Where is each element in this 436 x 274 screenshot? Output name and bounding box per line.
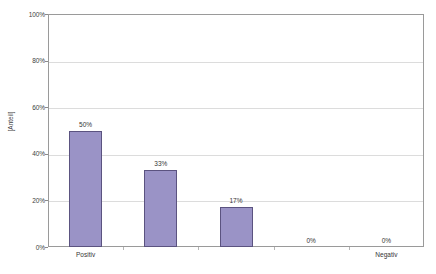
x-axis-tick-label: Negativ bbox=[356, 251, 416, 259]
y-axis-tick-marks bbox=[0, 14, 48, 247]
bar-chart: [Anteil] 100%80%60%40%20%0% 50%33%17%0%0… bbox=[0, 0, 436, 274]
gridline bbox=[49, 62, 423, 63]
x-axis-tick-mark bbox=[274, 247, 275, 250]
x-axis-tick-labels: PositivNegativ bbox=[48, 251, 424, 265]
x-axis-tick-label: Positiv bbox=[56, 251, 116, 259]
x-axis-tick-mark bbox=[198, 247, 199, 250]
gridline bbox=[49, 108, 423, 109]
gridline bbox=[49, 201, 423, 202]
x-axis-tick-mark bbox=[349, 247, 350, 250]
plot-area bbox=[48, 14, 424, 247]
gridline bbox=[49, 155, 423, 156]
x-axis-tick-mark bbox=[123, 247, 124, 250]
